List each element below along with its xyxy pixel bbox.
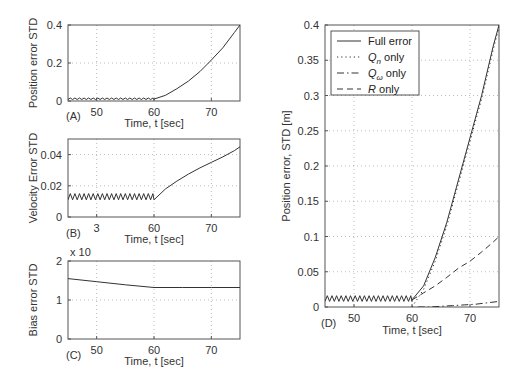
series-line (412, 237, 499, 300)
legend: Full errorQn onlyQω onlyR only (331, 31, 419, 95)
y-tick-label: 0.1 (304, 231, 319, 243)
x-axis-label: Time, t [sec] (382, 324, 442, 336)
figure: 50607000.20.4Time, t [sec]Position error… (0, 0, 519, 381)
y-tick-label: 0 (56, 95, 62, 107)
series-line (418, 301, 499, 307)
x-tick-label: 3 (94, 222, 100, 234)
series-line (68, 25, 240, 100)
x-tick-label: 60 (406, 312, 418, 324)
chart-panel-b: 3607000.020.04Time, t [sec]Velocity Erro… (27, 133, 240, 245)
y-tick-label: 0.04 (41, 149, 62, 161)
y-axis-label: Bias error STD (27, 264, 39, 337)
chart-panel-a: 50607000.20.4Time, t [sec]Position error… (27, 18, 240, 129)
panel-label: (D) (321, 317, 336, 329)
x-tick-label: 70 (205, 344, 217, 356)
y-tick-label: 1 (56, 294, 62, 306)
y-axis-label: Position error STD (27, 18, 39, 109)
axes-frame (68, 261, 240, 339)
x-axis-label: Time, t [sec] (124, 117, 184, 129)
x-tick-label: 70 (464, 312, 476, 324)
y-tick-label: 0.05 (298, 266, 319, 278)
panel-label: (C) (66, 349, 81, 361)
x-axis-label: Time, t [sec] (124, 355, 184, 367)
y-tick-label: 0.3 (304, 90, 319, 102)
y-tick-label: 2 (56, 255, 62, 267)
x-tick-label: 70 (205, 222, 217, 234)
series-line (68, 279, 240, 288)
panel-label: (B) (66, 227, 81, 239)
series-line (412, 27, 499, 307)
x-tick-label: 50 (348, 312, 360, 324)
y-tick-label: 0.25 (298, 125, 319, 137)
x-tick-label: 50 (91, 106, 103, 118)
axes-frame (68, 139, 240, 217)
y-tick-label: 0.2 (47, 57, 62, 69)
y-tick-label: 0 (313, 301, 319, 313)
y-axis-label: Position error, STD [m] (280, 110, 292, 221)
y-tick-label: 0.2 (304, 160, 319, 172)
legend-item-label: R only (368, 83, 400, 95)
y-axis-label: Velocity Error STD (27, 133, 39, 224)
x-axis-label: Time, t [sec] (124, 233, 184, 245)
x-tick-label: 50 (91, 344, 103, 356)
y-tick-label: 0.4 (47, 19, 62, 31)
exponent-label: x 10 (70, 246, 91, 258)
chart-panel-c: 506070012x 10Time, t [sec]Bias error STD… (27, 246, 240, 367)
y-tick-label: 0 (56, 211, 62, 223)
y-tick-label: 0.02 (41, 180, 62, 192)
y-tick-label: 0.15 (298, 195, 319, 207)
x-tick-label: 70 (205, 106, 217, 118)
chart-panel-d: 50607000.050.10.150.20.250.30.350.4Time,… (280, 19, 499, 336)
y-tick-label: 0 (56, 333, 62, 345)
y-tick-label: 0.4 (304, 19, 319, 31)
panel-label: (A) (66, 110, 81, 122)
y-tick-label: 0.35 (298, 54, 319, 66)
legend-item-label: Full error (368, 35, 412, 47)
